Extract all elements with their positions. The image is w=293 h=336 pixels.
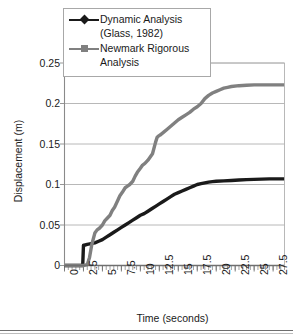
legend-key-diamond-icon [68, 13, 100, 26]
x-tick-label: 15 [183, 263, 193, 275]
x-tick-label: 7.5 [126, 260, 136, 275]
x-tick-label: 20 [221, 263, 231, 275]
footer-divider [0, 330, 293, 331]
x-tick-label: 12.5 [164, 254, 174, 274]
x-tick-label: 22.5 [240, 254, 250, 274]
x-tick-label: 5 [107, 269, 117, 275]
x-tick-label: 17.5 [202, 254, 212, 274]
legend-label-newmark-line1: Newmark Rigorous [100, 42, 189, 55]
footer-divider-secondary [0, 333, 293, 334]
chart-figure: 00.050.10.150.20.25 02.557.51012.51517.5… [0, 0, 293, 336]
y-axis-title: Displacement (m) [12, 86, 24, 236]
chart-legend: Dynamic Analysis (Glass, 1982) Newmark R… [63, 8, 211, 77]
x-axis-title: Time (seconds) [60, 312, 285, 324]
legend-entry-dynamic: Dynamic Analysis [68, 13, 206, 26]
legend-label-dynamic-line2: (Glass, 1982) [68, 27, 206, 40]
legend-label-newmark-line2: Analysis [68, 56, 206, 69]
x-tick-label: 25 [259, 263, 269, 275]
x-tick-label: 0 [69, 269, 79, 275]
x-tick-label: 10 [145, 263, 155, 275]
legend-label-dynamic-line1: Dynamic Analysis [100, 13, 182, 26]
x-tick-label: 2.5 [88, 260, 98, 275]
legend-key-square-icon [68, 42, 100, 55]
legend-entry-newmark: Newmark Rigorous [68, 42, 206, 55]
x-tick-label: 27.5 [278, 254, 288, 274]
